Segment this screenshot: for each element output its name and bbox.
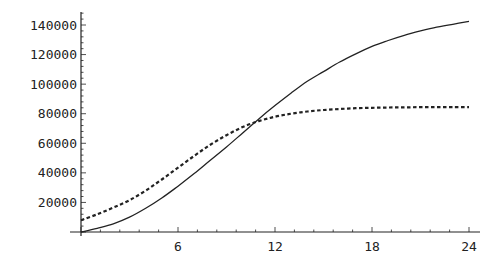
y-tick-label: 120000 [30, 47, 77, 62]
series-dashed-line [81, 107, 469, 220]
x-tick-label: 18 [364, 239, 380, 254]
x-tick-label: 12 [267, 239, 283, 254]
line-chart: 2000040000600008000010000012000014000061… [0, 0, 500, 262]
series-lines [81, 21, 469, 232]
y-tick-label: 40000 [38, 165, 77, 180]
y-tick-label: 140000 [30, 18, 77, 33]
tick-labels: 2000040000600008000010000012000014000061… [30, 18, 477, 255]
y-tick-label: 20000 [38, 195, 77, 210]
ticks [81, 13, 469, 232]
y-tick-label: 60000 [38, 136, 77, 151]
x-tick-label: 24 [461, 239, 477, 254]
series-solid-line [81, 21, 469, 232]
y-tick-label: 100000 [30, 77, 77, 92]
axes [70, 12, 480, 236]
x-tick-label: 6 [174, 239, 182, 254]
y-tick-label: 80000 [38, 106, 77, 121]
